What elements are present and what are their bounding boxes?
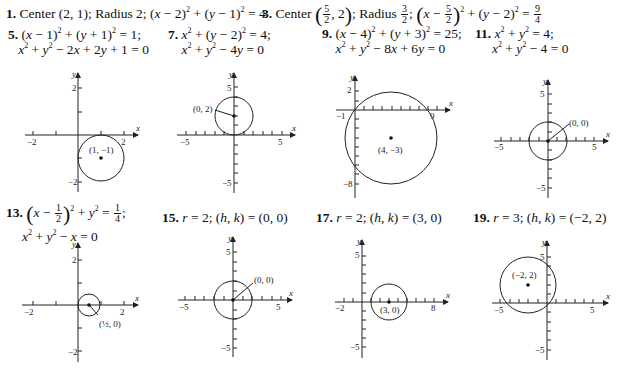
svg-text:x: x	[605, 129, 610, 139]
svg-text:(4, −3): (4, −3)	[378, 145, 403, 155]
svg-text:(0, 2): (0, 2)	[193, 104, 213, 114]
svg-text:−8: −8	[343, 179, 353, 189]
svg-text:−1: −1	[336, 111, 346, 121]
svg-text:5: 5	[227, 83, 232, 93]
graph-17	[335, 240, 448, 358]
svg-text:−5: −5	[494, 142, 504, 152]
svg-text:8: 8	[431, 303, 436, 313]
svg-text:−2: −2	[24, 307, 34, 317]
svg-text:y: y	[542, 76, 547, 86]
svg-text:y: y	[349, 72, 354, 82]
svg-text:(3, 0): (3, 0)	[380, 305, 400, 315]
svg-text:x: x	[288, 288, 293, 298]
svg-text:x: x	[605, 291, 610, 301]
svg-text:2: 2	[120, 307, 125, 317]
svg-text:−5: −5	[536, 183, 546, 193]
graph-11	[494, 80, 608, 198]
svg-text:2: 2	[347, 85, 352, 95]
svg-text:y: y	[541, 237, 546, 247]
svg-text:(½, 0): (½, 0)	[99, 319, 121, 329]
svg-text:−5: −5	[222, 178, 232, 188]
svg-text:y: y	[228, 69, 233, 79]
svg-text:(1, −1): (1, −1)	[89, 145, 114, 155]
svg-text:2: 2	[121, 137, 126, 147]
svg-text:−5: −5	[350, 342, 360, 352]
svg-text:(−2, 2): (−2, 2)	[512, 270, 537, 280]
svg-text:5: 5	[278, 137, 283, 147]
svg-text:(0, 0): (0, 0)	[569, 118, 589, 128]
svg-text:2: 2	[72, 255, 77, 265]
graphs: yx yx yx yx yx yx yx yx 2−22−2 (1, −1) 5…	[0, 0, 618, 372]
svg-text:x: x	[135, 123, 140, 133]
svg-text:y: y	[227, 233, 232, 243]
svg-text:5: 5	[540, 252, 545, 262]
svg-text:y: y	[71, 239, 76, 249]
svg-text:−2: −2	[335, 303, 345, 313]
svg-text:5: 5	[226, 247, 231, 257]
svg-text:−5: −5	[535, 345, 545, 355]
svg-text:x: x	[291, 123, 296, 133]
svg-text:−2: −2	[68, 347, 78, 357]
graph-15	[178, 237, 292, 357]
graph-13	[22, 243, 138, 362]
svg-text:5: 5	[590, 305, 595, 315]
svg-text:y: y	[356, 236, 361, 246]
graph-7	[177, 73, 295, 193]
svg-text:−5: −5	[179, 302, 189, 312]
graph-9	[336, 76, 450, 198]
svg-text:−5: −5	[180, 137, 190, 147]
svg-text:x: x	[448, 98, 453, 108]
svg-text:2: 2	[72, 83, 77, 93]
svg-text:5: 5	[540, 89, 545, 99]
svg-text:5: 5	[355, 250, 360, 260]
svg-text:−5: −5	[494, 305, 504, 315]
svg-text:−5: −5	[221, 343, 231, 353]
graph-19	[492, 241, 608, 360]
svg-text:x: x	[134, 293, 139, 303]
svg-text:−2: −2	[68, 177, 78, 187]
svg-text:5: 5	[592, 142, 597, 152]
svg-text:(0, 0): (0, 0)	[254, 275, 274, 285]
graph-5	[25, 73, 138, 192]
svg-text:−2: −2	[27, 137, 37, 147]
svg-text:y: y	[71, 69, 76, 79]
svg-text:5: 5	[276, 302, 281, 312]
svg-text:x: x	[445, 290, 450, 300]
svg-text:9: 9	[430, 111, 435, 121]
